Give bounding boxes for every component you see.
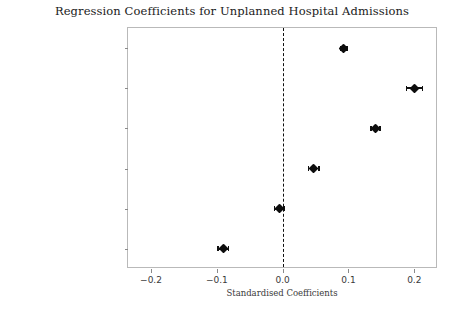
error-bar-cap — [422, 86, 423, 91]
error-bar-cap — [228, 246, 229, 251]
zero-reference-line — [283, 28, 284, 267]
y-tick-mark — [125, 249, 129, 250]
x-tick-mark — [348, 269, 349, 273]
x-axis-label: Standardised Coefficients — [127, 288, 437, 298]
plot-area: −0.2−0.10.00.10.2 — [127, 27, 437, 268]
x-tick-mark — [283, 269, 284, 273]
x-tick-mark — [151, 269, 152, 273]
y-tick-mark — [125, 169, 129, 170]
x-tick-label: −0.1 — [206, 275, 228, 285]
data-point-marker — [409, 83, 419, 93]
regression-coefficient-plot: Regression Coefficients for Unplanned Ho… — [0, 0, 464, 310]
data-point-marker — [218, 244, 228, 254]
x-tick-label: 0.1 — [341, 275, 355, 285]
error-bar-cap — [406, 86, 407, 91]
y-tick-mark — [125, 88, 129, 89]
chart-title: Regression Coefficients for Unplanned Ho… — [0, 4, 464, 18]
y-tick-mark — [125, 209, 129, 210]
x-tick-mark — [217, 269, 218, 273]
x-tick-label: 0.0 — [275, 275, 289, 285]
y-tick-mark — [125, 128, 129, 129]
x-tick-label: 0.2 — [407, 275, 421, 285]
data-point-marker — [309, 164, 319, 174]
x-tick-label: −0.2 — [140, 275, 162, 285]
x-tick-mark — [414, 269, 415, 273]
y-tick-mark — [125, 48, 129, 49]
